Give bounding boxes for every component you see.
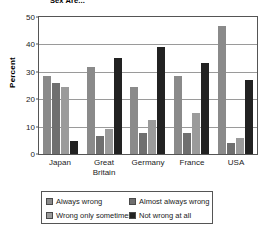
y-tick-label: 20 bbox=[26, 95, 35, 104]
x-axis-label: GreatBritain bbox=[82, 158, 126, 177]
x-axis-label: USA bbox=[214, 158, 258, 177]
bar bbox=[43, 76, 51, 154]
legend-swatch bbox=[129, 212, 136, 219]
legend-item[interactable]: Not wrong at all bbox=[129, 211, 212, 220]
plot-area: 01020304050 bbox=[38, 16, 258, 155]
bar bbox=[87, 67, 95, 154]
legend-swatch bbox=[46, 198, 53, 205]
x-axis-label: France bbox=[170, 158, 214, 177]
legend-item[interactable]: Almost always wrong bbox=[129, 197, 212, 206]
x-axis-label: Germany bbox=[126, 158, 170, 177]
bar bbox=[61, 87, 69, 154]
bar-group bbox=[213, 17, 257, 154]
legend-item[interactable]: Wrong only sometimes bbox=[46, 211, 129, 220]
bar bbox=[201, 63, 209, 154]
chart-legend: Always wrongAlmost always wrongWrong onl… bbox=[41, 191, 213, 224]
legend-label: Wrong only sometimes bbox=[56, 211, 132, 220]
bar-chart: Sex Are... Percent 01020304050 JapanGrea… bbox=[0, 0, 271, 233]
bar bbox=[52, 83, 60, 154]
legend-swatch bbox=[46, 212, 53, 219]
bar-groups bbox=[39, 17, 257, 154]
y-tick-label: 0 bbox=[31, 150, 35, 159]
bar bbox=[96, 136, 104, 154]
bar-group bbox=[39, 17, 83, 154]
bar bbox=[183, 133, 191, 154]
y-tick-label: 40 bbox=[26, 40, 35, 49]
bar bbox=[218, 26, 226, 154]
legend-item[interactable]: Always wrong bbox=[46, 197, 129, 206]
y-tick-label: 30 bbox=[26, 67, 35, 76]
y-axis-title: Percent bbox=[8, 43, 17, 103]
bar bbox=[236, 138, 244, 154]
bar bbox=[130, 87, 138, 154]
legend-label: Almost always wrong bbox=[139, 197, 209, 206]
bar bbox=[157, 47, 165, 154]
bar bbox=[105, 129, 113, 154]
bar bbox=[148, 120, 156, 154]
bar-group bbox=[83, 17, 127, 154]
bar bbox=[114, 58, 122, 154]
chart-title: Sex Are... bbox=[50, 0, 230, 5]
bar bbox=[227, 143, 235, 154]
legend-swatch bbox=[129, 198, 136, 205]
bar-group bbox=[126, 17, 170, 154]
bar-group bbox=[170, 17, 214, 154]
x-axis-labels: JapanGreatBritainGermanyFranceUSA bbox=[38, 158, 258, 177]
y-tick-label: 50 bbox=[26, 13, 35, 22]
bar bbox=[245, 80, 253, 154]
bar bbox=[70, 141, 78, 154]
bar bbox=[192, 113, 200, 154]
legend-label: Always wrong bbox=[56, 197, 102, 206]
y-tick-label: 10 bbox=[26, 122, 35, 131]
bar bbox=[174, 76, 182, 154]
x-axis-label: Japan bbox=[38, 158, 82, 177]
bar bbox=[139, 133, 147, 154]
legend-label: Not wrong at all bbox=[139, 211, 191, 220]
